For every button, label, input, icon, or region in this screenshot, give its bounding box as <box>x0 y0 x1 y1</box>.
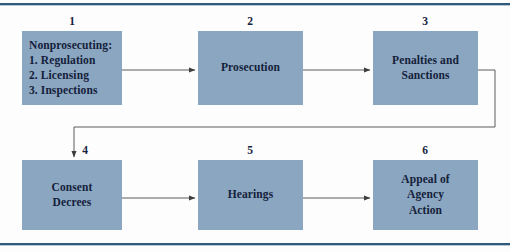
node-box-1: Nonprosecuting: 1. Regulation 2. Licensi… <box>22 31 122 105</box>
node-number-4: 4 <box>65 144 105 156</box>
node-number-2: 2 <box>230 15 270 27</box>
bottom-divider-shadow <box>0 245 510 246</box>
node-label-1: Nonprosecuting: 1. Regulation 2. Licensi… <box>29 38 112 99</box>
node-label-3: Penalties and Sanctions <box>392 53 459 83</box>
node-box-3: Penalties and Sanctions <box>373 31 478 105</box>
flowchart-diagram: 1 Nonprosecuting: 1. Regulation 2. Licen… <box>0 0 510 252</box>
node-label-5: Hearings <box>228 187 274 202</box>
node-number-5: 5 <box>230 144 270 156</box>
node-box-2: Prosecution <box>198 31 303 105</box>
node-number-1: 1 <box>52 15 92 27</box>
node-number-3: 3 <box>405 15 445 27</box>
node-label-2: Prosecution <box>221 60 280 75</box>
node-label-4: Consent Decrees <box>52 180 93 210</box>
node-box-4: Consent Decrees <box>22 160 122 230</box>
node-box-6: Appeal of Agency Action <box>373 160 478 230</box>
top-divider-shadow <box>0 5 510 6</box>
node-box-5: Hearings <box>198 160 303 230</box>
node-label-6: Appeal of Agency Action <box>401 172 450 218</box>
node-number-6: 6 <box>405 144 445 156</box>
